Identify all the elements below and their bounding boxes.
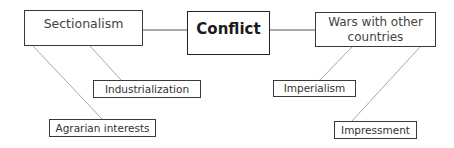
node-agrarian-interests: Agrarian interests bbox=[49, 119, 156, 137]
node-sectionalism-label: Sectionalism bbox=[44, 16, 124, 31]
node-wars-label-line-2: countries bbox=[348, 30, 404, 45]
node-wars-label-line-1: Wars with other bbox=[328, 15, 423, 30]
node-agrarian-interests-label: Agrarian interests bbox=[55, 122, 149, 135]
line-wars-to-impressment bbox=[352, 47, 420, 121]
node-sectionalism: Sectionalism bbox=[24, 10, 143, 46]
line-wars-to-imperialism bbox=[320, 47, 352, 80]
node-impressment-label: Impressment bbox=[341, 124, 410, 137]
node-conflict-label: Conflict bbox=[196, 20, 260, 38]
node-conflict: Conflict bbox=[187, 11, 270, 55]
node-impressment: Impressment bbox=[334, 121, 417, 139]
node-industrialization: Industrialization bbox=[93, 80, 201, 98]
node-imperialism: Imperialism bbox=[273, 80, 356, 97]
node-industrialization-label: Industrialization bbox=[105, 83, 189, 96]
node-wars-with-other-countries: Wars with other countries bbox=[315, 12, 436, 47]
node-imperialism-label: Imperialism bbox=[284, 82, 346, 95]
line-sectionalism-to-industrialization bbox=[90, 46, 121, 80]
line-sectionalism-to-agrarian bbox=[33, 46, 102, 119]
